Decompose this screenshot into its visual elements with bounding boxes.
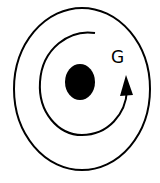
diagram: G bbox=[0, 0, 160, 183]
arrowhead-icon bbox=[120, 75, 133, 96]
curve-label-g: G bbox=[111, 47, 124, 67]
center-dot bbox=[65, 64, 95, 100]
